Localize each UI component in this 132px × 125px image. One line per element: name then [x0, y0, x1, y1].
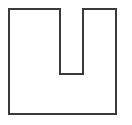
shape-canvas-svg [0, 0, 132, 125]
drawing-canvas [0, 0, 132, 125]
